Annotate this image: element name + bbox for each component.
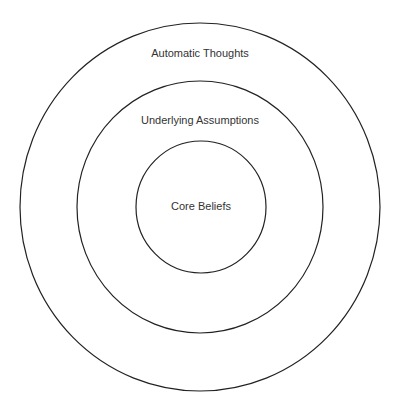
inner-layer-label: Core Beliefs [1,200,396,212]
outer-layer-label: Automatic Thoughts [0,47,396,59]
middle-layer-label: Underlying Assumptions [0,114,396,126]
